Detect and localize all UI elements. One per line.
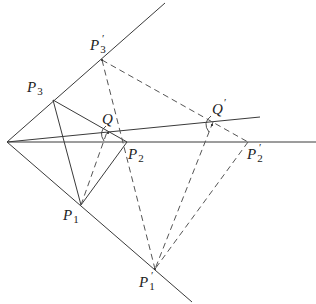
point-dot-p1p [154, 268, 156, 270]
label-p1-prime: P1′ [139, 275, 155, 292]
label-p2-prime: P2′ [247, 147, 263, 164]
angle-mark-qp [206, 116, 211, 132]
upper-ray [7, 3, 165, 142]
point-dot-p3p [101, 59, 103, 61]
dashed-p2p-p1p [155, 142, 248, 269]
lower-ray [7, 142, 192, 302]
label-p3-prime: P3′ [90, 38, 106, 55]
diagram-canvas [0, 0, 316, 304]
label-q: Q [102, 112, 113, 127]
segment-p1-p2 [81, 142, 127, 205]
label-p2: P2 [128, 147, 144, 164]
geometry-diagram: P3 P3′ Q P2 P1 Q′ P2′ P1′ [0, 0, 316, 304]
slanted-ray [7, 117, 260, 142]
segment-p3-p2 [53, 100, 127, 142]
point-dot-qp [211, 124, 213, 126]
label-p1: P1 [63, 208, 79, 225]
label-q-prime: Q′ [212, 102, 223, 117]
dashed-p3p-p1p [102, 60, 155, 269]
segment-p3-p1 [53, 100, 81, 205]
label-p3: P3 [27, 80, 43, 97]
dashed-p1-q [81, 132, 107, 205]
point-dot-q [107, 132, 109, 134]
dashed-qp-p1p [155, 122, 213, 269]
